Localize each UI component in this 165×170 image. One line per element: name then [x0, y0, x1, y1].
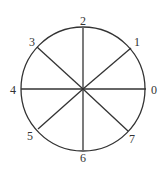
label-1: 1 — [134, 35, 140, 49]
label-4: 4 — [10, 83, 16, 97]
label-2: 2 — [80, 14, 86, 28]
label-0: 0 — [151, 83, 157, 97]
octant-circle-diagram: 01234567 — [0, 0, 165, 170]
spoke-1 — [83, 48, 131, 89]
label-6: 6 — [80, 151, 86, 165]
label-3: 3 — [29, 35, 35, 49]
spoke-5 — [38, 89, 83, 129]
label-7: 7 — [129, 132, 135, 146]
spoke-7 — [83, 89, 128, 131]
label-5: 5 — [27, 129, 33, 143]
spoke-3 — [37, 47, 83, 89]
